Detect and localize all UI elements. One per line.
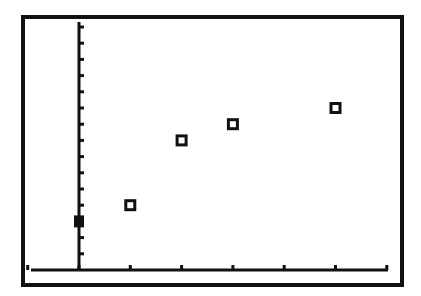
data-point-square-marker: [126, 201, 135, 210]
axes: [28, 22, 388, 271]
data-point-square-marker: [177, 136, 186, 145]
data-point-square-marker: [331, 104, 340, 113]
cursor-filled-square-icon: [74, 215, 84, 227]
calculator-graph-screen: [0, 0, 421, 296]
data-points: [126, 104, 340, 210]
data-point-square-marker: [228, 120, 237, 129]
trace-cursor: [74, 215, 84, 227]
scatter-plot: [0, 0, 421, 296]
